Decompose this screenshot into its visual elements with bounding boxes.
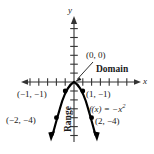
y-axis-top-arrowhead — [71, 16, 77, 24]
point-label-minus1-minus1: (−1, −1) — [17, 90, 47, 99]
point-2-minus4 — [89, 115, 94, 120]
function-label: f(x) = −x2 — [89, 103, 125, 114]
point-label-minus2-minus4: (−2, −4) — [6, 116, 36, 125]
curve-left-arrowhead — [48, 131, 55, 141]
function-expression: f(x) = −x — [89, 104, 122, 114]
function-exponent: 2 — [122, 102, 125, 109]
x-axis-label: x — [143, 77, 147, 86]
x-axis-right-arrowhead — [134, 79, 141, 85]
point-label-2-minus4: (2, −4) — [95, 117, 120, 126]
point-minus2-minus4 — [54, 115, 59, 120]
graph-figure: y x (0, 0) Domain Range (−1, −1) (1, −1)… — [0, 0, 154, 154]
point-label-1-minus1: (1, −1) — [86, 90, 111, 99]
point-1-minus1 — [80, 89, 85, 94]
x-axis-left-arrowhead — [21, 79, 28, 85]
origin-callout-arrow — [75, 62, 93, 82]
curve-right-arrowhead — [93, 131, 100, 141]
coordinate-plane-svg — [0, 0, 154, 154]
point-minus1-minus1 — [63, 89, 68, 94]
domain-label: Domain — [96, 65, 128, 75]
y-axis-label: y — [68, 6, 72, 15]
origin-point-label: (0, 0) — [86, 51, 106, 60]
range-label: Range — [64, 106, 74, 132]
